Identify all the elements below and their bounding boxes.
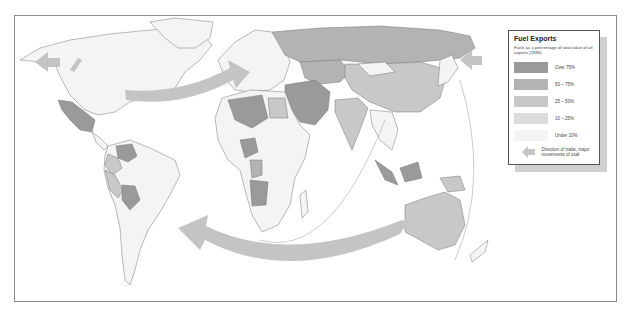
central-asia [300, 60, 350, 84]
legend-swatch [514, 96, 548, 107]
legend-subtitle: Fuels as a percentage of total value of … [514, 45, 594, 55]
legend-title: Fuel Exports [514, 35, 594, 42]
legend-row: 25 – 50% [514, 94, 594, 108]
indonesia [400, 162, 422, 182]
legend: Fuel Exports Fuels as a percentage of to… [508, 30, 600, 165]
legend-arrow-label: Direction of trade, major movements of c… [542, 147, 595, 157]
egypt [268, 98, 288, 118]
arrow-south-atlantic [178, 215, 408, 261]
legend-swatch [514, 62, 548, 73]
se-asia [370, 110, 398, 150]
angola [250, 180, 268, 206]
new-guinea [440, 176, 465, 192]
legend-label: Under 10% [555, 133, 578, 138]
legend-row: 50 – 75% [514, 77, 594, 91]
new-zealand [470, 240, 488, 262]
legend-swatch [514, 113, 548, 124]
australia [405, 192, 465, 250]
legend-arrow-row: Direction of trade, major movements of c… [514, 146, 594, 158]
legend-label: 50 – 75% [555, 82, 574, 87]
legend-label: 10 – 25% [555, 116, 574, 121]
legend-row: Under 10% [514, 128, 594, 142]
sumatra [375, 160, 398, 185]
arrow-left-icon [514, 146, 535, 158]
japan [438, 55, 458, 86]
madagascar [300, 190, 308, 218]
legend-swatch [514, 130, 548, 141]
congo [250, 160, 262, 178]
india [335, 98, 368, 150]
legend-label: Over 75% [555, 65, 575, 70]
legend-swatch [514, 79, 548, 90]
legend-row: Over 75% [514, 60, 594, 74]
legend-row: 10 – 25% [514, 111, 594, 125]
legend-label: 25 – 50% [555, 99, 574, 104]
